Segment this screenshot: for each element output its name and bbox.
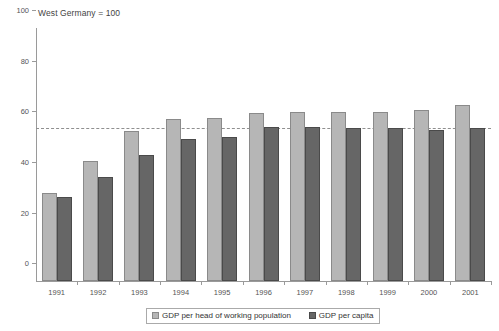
y-axis-tick: 0 <box>25 254 36 272</box>
bar[interactable] <box>388 128 403 281</box>
bar[interactable] <box>124 131 139 281</box>
y-axis-tick-mark <box>32 10 36 11</box>
legend-label: GDP per capita <box>319 311 374 320</box>
y-axis-tick-label: 40 <box>21 158 29 167</box>
bar[interactable] <box>264 127 279 281</box>
legend-label: GDP per head of working population <box>162 311 291 320</box>
bar[interactable] <box>181 139 196 281</box>
y-axis-tick-label: 20 <box>21 209 29 218</box>
y-axis-tick-label: 60 <box>21 107 29 116</box>
bar[interactable] <box>139 155 154 281</box>
x-axis-tick-label: 1992 <box>78 288 118 297</box>
bar[interactable] <box>373 112 388 282</box>
chart-legend: GDP per head of working population GDP p… <box>146 308 380 324</box>
bar-group <box>455 28 485 281</box>
bar[interactable] <box>83 161 98 281</box>
x-axis-tick-label: 1995 <box>202 288 242 297</box>
x-axis-tick-label: 2001 <box>450 288 490 297</box>
bar-group <box>207 28 237 281</box>
x-axis-tick-mark <box>491 281 492 285</box>
bar-group <box>83 28 113 281</box>
x-axis-tick-mark <box>77 281 78 285</box>
y-axis-tick-mark <box>32 162 36 163</box>
x-axis-tick-label: 1999 <box>368 288 408 297</box>
x-axis-tick-mark <box>326 281 327 285</box>
y-axis-tick: 20 <box>21 203 36 221</box>
chart-container: West Germany = 100 020406080100 19911992… <box>0 0 499 331</box>
bar[interactable] <box>222 137 237 281</box>
bar[interactable] <box>249 113 264 281</box>
y-axis-tick-mark <box>32 213 36 214</box>
x-axis-tick-label: 1997 <box>285 288 325 297</box>
x-axis-tick-mark <box>160 281 161 285</box>
bar[interactable] <box>470 128 485 281</box>
bar[interactable] <box>57 197 72 281</box>
bar-group <box>166 28 196 281</box>
bar[interactable] <box>305 127 320 281</box>
bar[interactable] <box>429 130 444 281</box>
bar[interactable] <box>166 119 181 281</box>
y-axis-tick-mark <box>32 111 36 112</box>
x-axis-tick-mark <box>243 281 244 285</box>
x-axis-tick-mark <box>284 281 285 285</box>
bar[interactable] <box>98 177 113 281</box>
bar[interactable] <box>290 112 305 282</box>
plot-area: 020406080100 <box>36 28 491 281</box>
bar-group <box>290 28 320 281</box>
y-axis-tick-mark <box>32 263 36 264</box>
x-axis-line <box>36 281 492 282</box>
bar[interactable] <box>331 112 346 281</box>
x-axis-tick-label: 1991 <box>37 288 77 297</box>
y-axis-tick: 100 <box>16 1 36 19</box>
x-axis-tick-label: 1996 <box>244 288 284 297</box>
bar-group <box>124 28 154 281</box>
bar-group <box>331 28 361 281</box>
bar-group <box>414 28 444 281</box>
y-axis-tick-label: 80 <box>21 57 29 66</box>
x-axis-tick-mark <box>450 281 451 285</box>
bar[interactable] <box>414 110 429 281</box>
y-axis-tick: 60 <box>21 102 36 120</box>
x-axis-tick-mark <box>119 281 120 285</box>
bar[interactable] <box>346 128 361 281</box>
y-axis-tick-mark <box>32 61 36 62</box>
y-axis-tick: 40 <box>21 153 36 171</box>
bar[interactable] <box>207 118 222 281</box>
bar[interactable] <box>42 193 57 281</box>
bar[interactable] <box>455 105 470 281</box>
legend-swatch-icon-dark <box>309 312 316 319</box>
chart-title: West Germany = 100 <box>38 8 120 18</box>
bar-group <box>42 28 72 281</box>
x-axis-tick-label: 2000 <box>409 288 449 297</box>
x-axis-tick-mark <box>408 281 409 285</box>
y-axis-tick-label: 0 <box>25 259 29 268</box>
legend-swatch-icon-light <box>152 312 159 319</box>
x-axis-tick-mark <box>201 281 202 285</box>
legend-item-gdp-per-head-of-working-population[interactable]: GDP per head of working population <box>152 311 291 320</box>
x-axis-tick-mark <box>367 281 368 285</box>
y-axis-tick-label: 100 <box>16 6 29 15</box>
bar-group <box>373 28 403 281</box>
x-axis-tick-label: 1993 <box>119 288 159 297</box>
x-axis-tick-label: 1998 <box>326 288 366 297</box>
y-axis-tick: 80 <box>21 52 36 70</box>
legend-item-gdp-per-capita[interactable]: GDP per capita <box>309 311 374 320</box>
x-axis-tick-label: 1994 <box>161 288 201 297</box>
bar-group <box>249 28 279 281</box>
